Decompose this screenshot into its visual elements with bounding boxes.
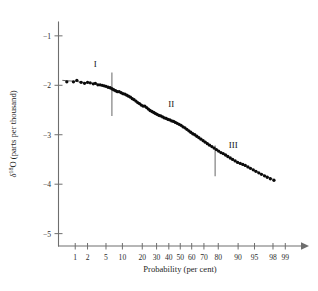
region-label: II (168, 99, 174, 109)
chart-canvas: −1−2−3−4−5 125102030405060708090959899 I… (0, 0, 318, 291)
x-tick-label: 5 (104, 253, 108, 262)
y-tick-label: −3 (43, 131, 51, 140)
region-label: III (229, 140, 238, 150)
data-point (266, 176, 269, 179)
data-point (272, 179, 275, 182)
x-tick-label: 40 (165, 253, 173, 262)
probability-plot-figure: −1−2−3−4−5 125102030405060708090959899 I… (0, 0, 318, 291)
data-point (89, 81, 92, 84)
data-point (79, 81, 82, 84)
x-tick-label: 98 (269, 253, 277, 262)
x-tick-label: 80 (214, 253, 222, 262)
svg-text:δ18O (parts per thousand): δ18O (parts per thousand) (8, 90, 18, 177)
x-tick-label: 60 (188, 253, 196, 262)
y-tick-label: −2 (43, 81, 51, 90)
y-axis-ticks: −1−2−3−4−5 (43, 32, 63, 239)
x-axis-title: Probability (per cent) (143, 264, 217, 274)
data-point (260, 173, 263, 176)
x-tick-label: 90 (234, 253, 242, 262)
x-tick-label: 30 (153, 253, 161, 262)
data-point (83, 82, 86, 85)
x-tick-label: 10 (119, 253, 127, 262)
x-axis-arrow-icon (301, 242, 309, 250)
data-points (65, 79, 275, 182)
data-point (269, 177, 272, 180)
data-point (254, 170, 257, 173)
x-tick-label: 99 (281, 253, 289, 262)
region-label: I (94, 59, 97, 69)
x-tick-label: 2 (86, 253, 90, 262)
region-divider-lines (112, 72, 215, 176)
y-axis-title: δ18O (parts per thousand) (8, 90, 18, 177)
data-point (72, 80, 75, 83)
data-point (75, 79, 78, 82)
data-point (249, 167, 252, 170)
data-point (65, 80, 68, 83)
y-axis-title-units: (parts per thousand) (8, 90, 18, 159)
y-tick-label: −1 (43, 32, 51, 41)
x-tick-label: 70 (200, 253, 208, 262)
region-labels: IIIIII (94, 59, 238, 150)
x-tick-label: 20 (138, 253, 146, 262)
x-tick-label: 1 (73, 253, 77, 262)
x-tick-label: 95 (251, 253, 259, 262)
y-tick-label: −4 (43, 180, 51, 189)
x-tick-label: 50 (176, 253, 184, 262)
y-tick-label: −5 (43, 230, 51, 239)
